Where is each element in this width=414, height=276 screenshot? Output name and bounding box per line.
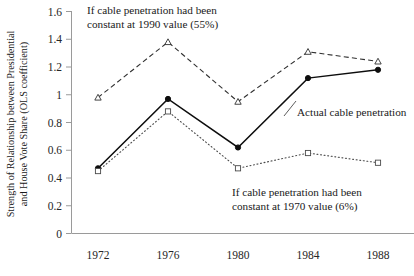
series-line bbox=[98, 70, 378, 169]
x-tick-labels: 1972 1976 1980 1984 1988 bbox=[87, 249, 390, 261]
series-3 bbox=[95, 109, 380, 174]
data-point-marker bbox=[375, 160, 380, 165]
data-point-marker bbox=[165, 39, 171, 45]
chart-container: 1.6 1.4 1.2 1 0.8 0.6 0.4 0.2 0 1972 197… bbox=[0, 0, 414, 276]
y-tick-label: 1 bbox=[56, 89, 62, 101]
data-point-marker bbox=[235, 98, 241, 104]
annotation-actual: Actual cable penetration bbox=[297, 106, 407, 118]
annotation-actual-line1: Actual cable penetration bbox=[297, 106, 407, 118]
data-point-marker bbox=[375, 67, 380, 72]
x-tick-label: 1980 bbox=[227, 249, 250, 261]
x-tick-label: 1976 bbox=[157, 249, 180, 261]
data-point-marker bbox=[95, 168, 100, 173]
y-tick-labels: 1.6 1.4 1.2 1 0.8 0.6 0.4 0.2 0 bbox=[48, 6, 63, 240]
x-tick-label: 1988 bbox=[367, 249, 390, 261]
y-tick-label: 0.8 bbox=[48, 117, 63, 129]
data-point-marker bbox=[235, 145, 240, 150]
series-line bbox=[98, 111, 378, 171]
y-tick-label: 0.6 bbox=[48, 144, 63, 156]
annotation-1970: If cable penetration had been constant a… bbox=[232, 186, 362, 213]
y-tick-label: 0.4 bbox=[48, 172, 63, 184]
y-axis-title: Strength of Relationship between Preside… bbox=[5, 30, 30, 217]
data-point-marker bbox=[305, 49, 311, 55]
x-tick-label: 1972 bbox=[87, 249, 110, 261]
line-chart: 1.6 1.4 1.2 1 0.8 0.6 0.4 0.2 0 1972 197… bbox=[0, 0, 414, 276]
annotation-1990-line2: constant at 1990 value (55%) bbox=[87, 18, 218, 31]
annotation-1970-line1: If cable penetration had been bbox=[232, 186, 362, 198]
series-1 bbox=[95, 39, 381, 104]
y-tick-label: 0.2 bbox=[48, 200, 63, 212]
annotation-1990: If cable penetration had been constant a… bbox=[87, 4, 218, 31]
data-point-marker bbox=[375, 58, 381, 64]
x-tick-label: 1984 bbox=[297, 249, 320, 261]
y-axis-title-line2: and House Vote Share (OLS coefficient) bbox=[18, 42, 30, 206]
annotation-1970-line2: constant at 1970 value (6%) bbox=[232, 200, 358, 213]
series-line bbox=[98, 42, 378, 102]
data-point-marker bbox=[165, 109, 170, 114]
data-point-marker bbox=[305, 150, 310, 155]
y-tick-label: 1.4 bbox=[48, 33, 63, 45]
data-point-marker bbox=[165, 96, 170, 101]
series-2 bbox=[95, 67, 380, 171]
y-tick-label: 1.2 bbox=[48, 61, 63, 73]
y-tick-label: 0 bbox=[56, 228, 62, 240]
data-point-marker bbox=[235, 166, 240, 171]
annotation-leader-line bbox=[284, 101, 296, 116]
y-tick-label: 1.6 bbox=[48, 6, 63, 18]
annotation-1990-line1: If cable penetration had been bbox=[87, 4, 217, 16]
y-axis-title-line1: Strength of Relationship between Preside… bbox=[5, 30, 16, 217]
y-tick-marks bbox=[66, 12, 72, 234]
data-point-marker bbox=[305, 76, 310, 81]
